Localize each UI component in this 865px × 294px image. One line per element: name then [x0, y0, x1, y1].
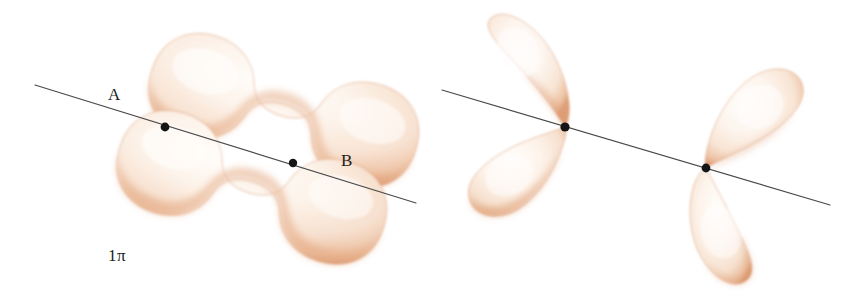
orbital-panel-antibonding: A B 1π* [433, 0, 865, 294]
orbital-caption-bonding: 1π [108, 246, 126, 266]
bonding-orbital-drawing [0, 0, 433, 294]
orbital-panel-bonding: A B 1π [0, 0, 433, 294]
antibonding-lobe-A-upper [488, 14, 569, 127]
antibonding-lobe-B-upper [705, 69, 803, 168]
antibonding-orbital-drawing [433, 0, 865, 294]
antibonding-lobe-A-lower [468, 127, 566, 216]
nucleus-B-antibonding [702, 164, 711, 173]
nucleus-A-bonding [161, 123, 170, 132]
atom-label-A-bonding: A [108, 85, 120, 105]
figure-root: A B 1π [0, 0, 865, 294]
nucleus-A-antibonding [560, 122, 569, 131]
nucleus-B-bonding [289, 159, 297, 167]
antibonding-lobe-B-lower [690, 168, 752, 284]
atom-label-B-bonding: B [341, 151, 352, 171]
